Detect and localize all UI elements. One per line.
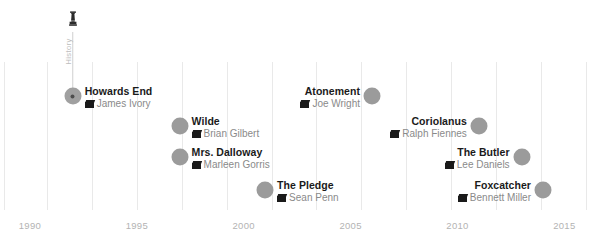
director-name: James Ivory bbox=[97, 98, 151, 110]
gridline bbox=[182, 62, 183, 210]
clapperboard-icon bbox=[458, 194, 467, 202]
clapperboard-icon bbox=[300, 100, 309, 108]
data-point[interactable] bbox=[64, 88, 81, 105]
point-title: Atonement bbox=[300, 85, 360, 97]
point-director: Marleen Gorris bbox=[192, 159, 270, 171]
point-title: The Pledge bbox=[277, 179, 339, 191]
gridline bbox=[47, 62, 48, 210]
data-point[interactable] bbox=[171, 149, 188, 166]
point-title: The Butler bbox=[445, 146, 510, 158]
data-point[interactable] bbox=[535, 182, 552, 199]
oscar-statuette-icon bbox=[67, 11, 79, 31]
x-axis-tick-label: 2005 bbox=[339, 220, 361, 231]
data-point-core bbox=[71, 94, 75, 98]
director-name: Ralph Fiennes bbox=[402, 128, 466, 140]
gridline bbox=[361, 62, 362, 210]
x-axis-tick-label: 2000 bbox=[233, 220, 255, 231]
point-director: Lee Daniels bbox=[445, 159, 510, 171]
director-name: Sean Penn bbox=[289, 192, 339, 204]
director-name: Joe Wright bbox=[312, 98, 360, 110]
point-label[interactable]: CoriolanusRalph Fiennes bbox=[390, 115, 466, 140]
point-director: Joe Wright bbox=[300, 98, 360, 110]
point-director: Ralph Fiennes bbox=[390, 128, 466, 140]
point-director: Bennett Miller bbox=[458, 192, 531, 204]
point-label[interactable]: The ButlerLee Daniels bbox=[445, 146, 510, 171]
point-title: Foxcatcher bbox=[458, 179, 531, 191]
clapperboard-icon bbox=[445, 161, 454, 169]
x-axis-tick-label: 1995 bbox=[126, 220, 148, 231]
director-name: Marleen Gorris bbox=[204, 159, 270, 171]
clapperboard-icon bbox=[192, 130, 201, 138]
point-label[interactable]: Mrs. DallowayMarleen Gorris bbox=[192, 146, 270, 171]
clapperboard-icon bbox=[277, 194, 286, 202]
movie-timeline-scatter-chart: History Howards EndJames IvoryAtonementJ… bbox=[0, 0, 590, 242]
annotation-label: History bbox=[63, 38, 72, 64]
clapperboard-icon bbox=[85, 100, 94, 108]
director-name: Brian Gilbert bbox=[204, 128, 260, 140]
director-name: Bennett Miller bbox=[470, 192, 531, 204]
point-label[interactable]: The PledgeSean Penn bbox=[277, 179, 339, 204]
point-director: Sean Penn bbox=[277, 192, 339, 204]
clapperboard-icon bbox=[192, 161, 201, 169]
point-director: Brian Gilbert bbox=[192, 128, 260, 140]
point-title: Howards End bbox=[85, 85, 153, 97]
point-title: Coriolanus bbox=[390, 115, 466, 127]
point-label[interactable]: WildeBrian Gilbert bbox=[192, 115, 260, 140]
x-axis-tick-label: 2015 bbox=[553, 220, 575, 231]
gridline bbox=[586, 62, 587, 210]
data-point[interactable] bbox=[513, 149, 530, 166]
data-point[interactable] bbox=[257, 182, 274, 199]
point-label[interactable]: FoxcatcherBennett Miller bbox=[458, 179, 531, 204]
point-label[interactable]: AtonementJoe Wright bbox=[300, 85, 360, 110]
point-title: Wilde bbox=[192, 115, 260, 127]
gridline bbox=[4, 62, 5, 210]
point-title: Mrs. Dalloway bbox=[192, 146, 270, 158]
point-director: James Ivory bbox=[85, 98, 153, 110]
director-name: Lee Daniels bbox=[457, 159, 510, 171]
data-point[interactable] bbox=[364, 88, 381, 105]
x-axis: 199019952000200520102015 bbox=[0, 210, 590, 242]
data-point[interactable] bbox=[171, 118, 188, 135]
x-axis-tick-label: 1990 bbox=[19, 220, 41, 231]
data-point[interactable] bbox=[470, 118, 487, 135]
x-axis-tick-label: 2010 bbox=[446, 220, 468, 231]
point-label[interactable]: Howards EndJames Ivory bbox=[85, 85, 153, 110]
clapperboard-icon bbox=[390, 130, 399, 138]
